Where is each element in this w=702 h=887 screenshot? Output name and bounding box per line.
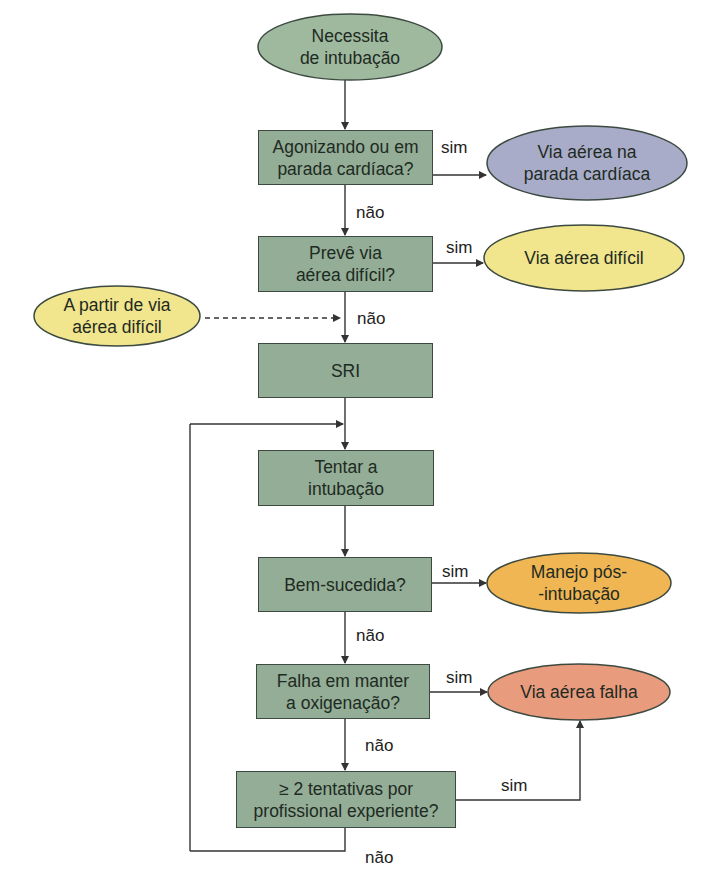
failed-airway-node: Via aérea falha bbox=[488, 664, 670, 720]
label-no-success: não bbox=[356, 626, 384, 646]
from-difficult-airway-node: A partir de via aérea difícil bbox=[34, 286, 200, 346]
oxygenation-decision-box: Falha em manter a oxigenação? bbox=[256, 664, 430, 719]
label-yes-difficult: sim bbox=[446, 238, 472, 258]
sri-box: SRI bbox=[258, 343, 433, 398]
attempt-intubation-box: Tentar a intubação bbox=[258, 450, 434, 506]
predict-difficult-decision-box: Prevê via aérea difícil? bbox=[258, 236, 433, 292]
cardiac-airway-node: Via aérea na parada cardíaca bbox=[487, 126, 687, 200]
label-no-attempts: não bbox=[365, 848, 393, 868]
label-no-difficult: não bbox=[357, 309, 385, 329]
agonal-decision-box: Agonizando ou em parada cardíaca? bbox=[258, 130, 433, 185]
label-yes-oxygen: sim bbox=[446, 668, 472, 688]
success-decision-box: Bem-sucedida? bbox=[258, 557, 432, 612]
start-node: Necessita de intubação bbox=[258, 14, 442, 80]
label-yes-agonal: sim bbox=[441, 138, 467, 158]
edge-attempts-no bbox=[190, 828, 345, 851]
post-intubation-node: Manejo pós- -intubação bbox=[487, 553, 671, 613]
difficult-airway-node: Via aérea difícil bbox=[484, 225, 684, 291]
attempts-decision-box: ≥ 2 tentativas por profissional experien… bbox=[236, 771, 456, 828]
label-yes-success: sim bbox=[442, 562, 468, 582]
label-no-agonal: não bbox=[356, 203, 384, 223]
label-no-oxygen: não bbox=[365, 736, 393, 756]
label-yes-attempts: sim bbox=[501, 776, 527, 796]
